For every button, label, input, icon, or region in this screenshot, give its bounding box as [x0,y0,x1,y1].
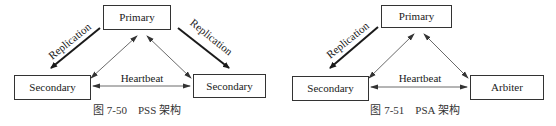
pss-primary-node: Primary [104,6,171,30]
psa-arbiter-label: Arbiter [491,81,523,93]
pss-replication-right-label: Replication [188,16,235,58]
pss-primary-label: Primary [119,11,155,23]
pss-replication-left-label: Replication [46,20,93,62]
psa-primary-node: Primary [382,6,452,28]
pss-caption: 图 7-50 PSS 架构 [93,103,181,116]
pss-secondary-left-node: Secondary [15,76,91,100]
pss-diagram: Primary Secondary Secondary Replication … [15,6,266,117]
psa-primary-label: Primary [399,10,435,22]
pss-secondary-right-node: Secondary [194,75,266,98]
psa-secondary-label: Secondary [307,82,354,94]
psa-diagram: Primary Secondary Arbiter Replication He… [293,6,544,117]
psa-arbiter-node: Arbiter [471,76,544,100]
psa-secondary-node: Secondary [293,77,369,101]
pss-heartbeat-label: Heartbeat [121,72,164,84]
pss-secondary-right-label: Secondary [206,80,253,92]
diagram-canvas: Primary Secondary Secondary Replication … [0,0,556,126]
psa-caption: 图 7-51 PSA 架构 [370,103,459,116]
psa-heartbeat-label: Heartbeat [399,72,442,84]
pss-secondary-left-label: Secondary [29,81,76,93]
